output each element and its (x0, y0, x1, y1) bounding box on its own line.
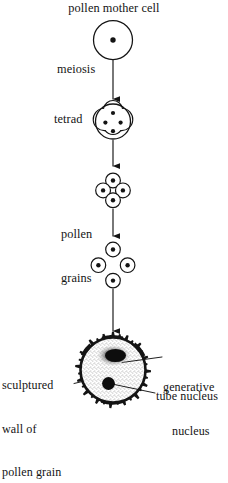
generative-nucleus-icon (97, 345, 130, 366)
label-sculptured-wall-line-2: wall of (2, 422, 61, 437)
stage-pollen-grains (91, 242, 135, 288)
label-sculptured-wall-line-3: pollen grain (2, 465, 61, 480)
stage-pollen-mother-cell (94, 21, 133, 60)
stage-separating-tetrad (96, 173, 131, 208)
stage-tetrad (93, 101, 133, 139)
leader-sculptured-wall (74, 382, 83, 384)
stage-mature-pollen-grain (74, 332, 162, 408)
label-generative-nucleus-line-2: nucleus (163, 424, 214, 439)
tube-nucleus-icon (102, 377, 115, 390)
